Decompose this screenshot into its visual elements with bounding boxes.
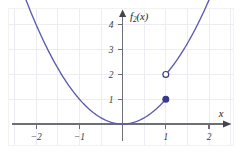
panel-border bbox=[9, 9, 234, 146]
y-tick-label-4: 4 bbox=[109, 20, 114, 30]
x-tick-label-neg2: −2 bbox=[31, 132, 42, 142]
x-axis-label: x bbox=[218, 108, 224, 119]
y-tick-label-1: 1 bbox=[109, 95, 114, 105]
y-tick-label-3: 3 bbox=[108, 45, 114, 55]
x-tick-label-2: 2 bbox=[207, 132, 212, 142]
open-endpoint-marker bbox=[163, 72, 169, 78]
closed-endpoint-marker bbox=[163, 96, 169, 102]
x-tick-label-1: 1 bbox=[163, 132, 168, 142]
plot-canvas: −2 −1 1 2 1 2 3 4 f2(x) x bbox=[0, 0, 242, 154]
y-tick-label-2: 2 bbox=[109, 70, 114, 80]
y-axis-label-argument: (x) bbox=[137, 11, 149, 23]
x-tick-label-neg1: −1 bbox=[74, 132, 85, 142]
figure-container: −2 −1 1 2 1 2 3 4 f2(x) x bbox=[0, 0, 242, 154]
